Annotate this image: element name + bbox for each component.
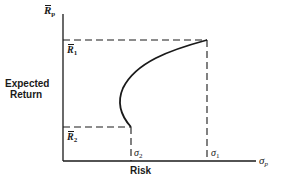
sigma2-label-sub: 2: [139, 152, 143, 160]
y-axis-title-line1: Expected: [5, 78, 49, 89]
r1-label-sub: 1: [74, 49, 78, 57]
sigma1-label: σ1: [211, 147, 219, 162]
y-axis-title-line2: Return: [10, 89, 42, 100]
x-axis-symbol: σp: [259, 155, 268, 170]
risk-return-diagram: [0, 0, 292, 184]
r2-label: R2: [67, 131, 77, 146]
sigma1-label-sub: 1: [216, 152, 220, 160]
y-axis-symbol: Rp: [44, 5, 55, 20]
y-axis-symbol-main: R: [44, 5, 51, 16]
sigma2-label: σ2: [134, 147, 142, 162]
y-axis-symbol-sub: p: [51, 10, 55, 18]
frontier-curve: [120, 40, 207, 127]
r1-label-main: R: [67, 44, 74, 55]
r2-label-sub: 2: [74, 136, 78, 144]
r2-label-main: R: [67, 131, 74, 142]
x-axis-title: Risk: [130, 165, 151, 176]
r1-label: R1: [67, 44, 77, 59]
x-axis-symbol-sub: p: [264, 160, 268, 168]
